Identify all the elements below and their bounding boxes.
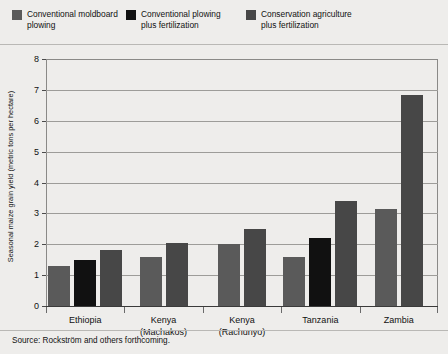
y-tick-label-1: 1 <box>34 270 39 280</box>
x-axis-line <box>46 306 438 307</box>
legend-item-conventional-moldboard-plowing: Conventional moldboard plowing <box>12 9 124 30</box>
bar <box>166 243 188 306</box>
y-tick-label-2: 2 <box>34 239 39 249</box>
gridline-5 <box>46 152 438 153</box>
legend-label-1: Conventional plowing plus fertilization <box>141 9 221 30</box>
plot-area-wrapper: Seasonal maize grain yield (metric tons … <box>0 45 448 330</box>
y-axis-title-text: Seasonal maize grain yield (metric tons … <box>7 91 16 262</box>
y-tick-label-4: 4 <box>34 178 39 188</box>
x-tick-end-0 <box>46 307 47 313</box>
y-tick-mark-6 <box>42 121 46 122</box>
bar <box>140 257 162 306</box>
legend-item-conservation-agriculture-plus-fertilization: Conservation agriculture plus fertilizat… <box>246 9 366 30</box>
y-tick-mark-1 <box>42 275 46 276</box>
x-axis-label-4: Zambia <box>360 315 438 327</box>
bar <box>309 238 331 306</box>
y-tick-mark-4 <box>42 183 46 184</box>
bar <box>218 244 240 306</box>
gridline-4 <box>46 183 438 184</box>
x-tick-end-1 <box>437 307 438 313</box>
chart-legend: Conventional moldboard plowing Conventio… <box>0 0 448 44</box>
x-axis-label-1: Kenya (Machakos) <box>124 315 202 338</box>
gridline-8 <box>46 59 438 60</box>
x-tick-divider-2 <box>203 307 204 313</box>
y-tick-label-6: 6 <box>34 116 39 126</box>
legend-label-0: Conventional moldboard plowing <box>27 9 118 30</box>
plot-area: 012345678 EthiopiaKenya (Machakos)Kenya … <box>46 59 438 307</box>
x-axis-label-0: Ethiopia <box>46 315 124 327</box>
source-note: Source: Rockström and others forthcoming… <box>12 336 170 345</box>
y-tick-mark-3 <box>42 213 46 214</box>
bar <box>375 209 397 306</box>
bar <box>100 250 122 306</box>
x-tick-divider-3 <box>281 307 282 313</box>
y-tick-mark-2 <box>42 244 46 245</box>
bar <box>244 229 266 306</box>
gridline-6 <box>46 121 438 122</box>
x-axis-label-2: Kenya (Rachunyo) <box>203 315 281 338</box>
y-tick-label-7: 7 <box>34 85 39 95</box>
bar <box>74 260 96 306</box>
bar <box>283 257 305 306</box>
y-tick-label-3: 3 <box>34 208 39 218</box>
y-tick-mark-5 <box>42 152 46 153</box>
x-axis-label-3: Tanzania <box>281 315 359 327</box>
legend-swatch-icon-0 <box>12 10 22 20</box>
legend-item-conventional-plowing-plus-fertilization: Conventional plowing plus fertilization <box>126 9 240 30</box>
legend-swatch-icon-2 <box>246 10 256 20</box>
figure-container: Conventional moldboard plowing Conventio… <box>0 0 448 354</box>
gridline-7 <box>46 90 438 91</box>
x-tick-divider-1 <box>124 307 125 313</box>
legend-swatch-icon-1 <box>126 10 136 20</box>
bar <box>401 95 423 306</box>
bar <box>48 266 70 306</box>
y-axis-title: Seasonal maize grain yield (metric tons … <box>4 45 18 308</box>
legend-label-2: Conservation agriculture plus fertilizat… <box>261 9 352 30</box>
y-tick-label-0: 0 <box>34 301 39 311</box>
y-tick-label-5: 5 <box>34 147 39 157</box>
source-divider <box>0 330 448 331</box>
x-tick-divider-4 <box>360 307 361 313</box>
y-tick-mark-8 <box>42 59 46 60</box>
bar <box>335 201 357 306</box>
y-tick-mark-7 <box>42 90 46 91</box>
y-tick-label-8: 8 <box>34 54 39 64</box>
